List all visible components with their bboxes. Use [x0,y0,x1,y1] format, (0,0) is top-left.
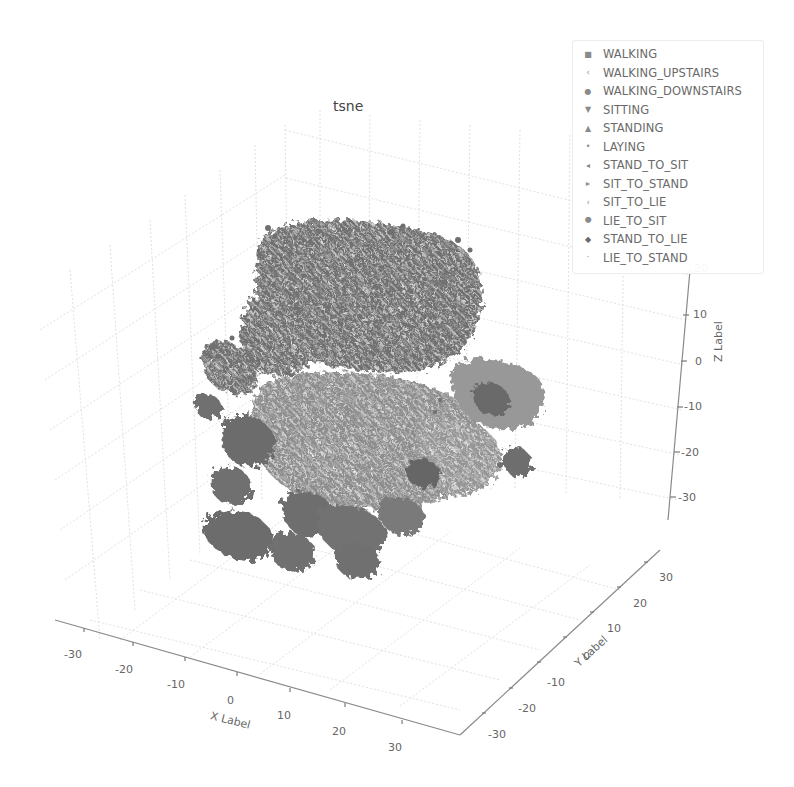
y-tick: 10 [607,622,621,635]
y-tick: -30 [488,728,506,741]
point-marker-icon: • [573,142,603,151]
y-tick: -20 [518,702,536,715]
triangle-down-marker-icon: ▼ [573,105,603,114]
legend-label: LIE_TO_STAND [603,251,688,265]
scatter-points [195,220,545,579]
legend-item-sit-to-stand: ▸ SIT_TO_STAND [573,175,688,193]
z-tick: -20 [681,446,699,459]
legend-label: LAYING [603,140,645,154]
y-axis-line [460,550,660,735]
y-tick: 20 [633,597,647,610]
legend-label: WALKING_DOWNSTAIRS [603,84,742,98]
triangle-up-marker-icon: ▲ [573,124,603,133]
triangle-right-marker-icon: ▸ [573,179,603,188]
x-tick: -30 [64,648,82,661]
octagon-marker-icon: ⯃ [573,216,603,226]
z-tick: 10 [693,308,707,321]
x-tick: -10 [167,678,185,691]
x-tick: -20 [115,663,133,676]
diamond-marker-icon: ◆ [573,235,603,244]
z-tick: -10 [684,400,702,413]
square-marker-icon: ■ [573,50,603,59]
legend-label: STAND_TO_LIE [603,232,688,246]
legend-item-walking-downstairs: ● WALKING_DOWNSTAIRS [573,82,742,100]
x-tick: 0 [227,694,234,707]
legend-item-lie-to-stand: · LIE_TO_STAND [573,249,688,267]
cluster-upper [240,220,482,376]
legend-item-lie-to-sit: ⯃ LIE_TO_SIT [573,212,666,230]
tri-left-marker-icon: ‹ [573,198,603,207]
y-tick: 30 [659,571,673,584]
legend-item-sitting: ▼ SITTING [573,101,649,119]
legend-item-walking-upstairs: ‹ WALKING_UPSTAIRS [573,64,719,82]
legend-label: SIT_TO_LIE [603,195,666,209]
x-tick: 10 [277,709,291,722]
pixel-marker-icon: · [573,253,603,262]
x-tick: 30 [388,741,402,754]
legend-label: LIE_TO_SIT [603,214,666,228]
circle-marker-icon: ● [573,87,603,96]
z-axis-line [668,270,690,520]
legend-label: WALKING_UPSTAIRS [603,66,719,80]
legend-item-standing: ▲ STANDING [573,119,663,137]
legend-item-stand-to-sit: ◂ STAND_TO_SIT [573,156,688,174]
legend-item-sit-to-lie: ‹ SIT_TO_LIE [573,193,666,211]
z-axis-label: Z Label [712,321,725,362]
legend: ■ WALKING ‹ WALKING_UPSTAIRS ● WALKING_D… [572,40,764,274]
legend-item-walking: ■ WALKING [573,45,657,63]
legend-label: SIT_TO_STAND [603,177,688,191]
chart-title: tsne [333,98,363,114]
y-tick: -10 [547,676,565,689]
legend-label: STAND_TO_SIT [603,158,688,172]
legend-label: SITTING [603,103,649,117]
tri-left-marker-icon: ‹ [573,68,603,77]
x-tick: 20 [332,725,346,738]
legend-label: STANDING [603,121,663,135]
legend-item-stand-to-lie: ◆ STAND_TO_LIE [573,230,688,248]
z-tick: 0 [695,355,702,368]
triangle-left-marker-icon: ◂ [573,161,603,170]
legend-item-laying: • LAYING [573,138,645,156]
x-axis-line [55,620,460,735]
legend-label: WALKING [603,47,657,61]
z-tick: -30 [678,491,696,504]
